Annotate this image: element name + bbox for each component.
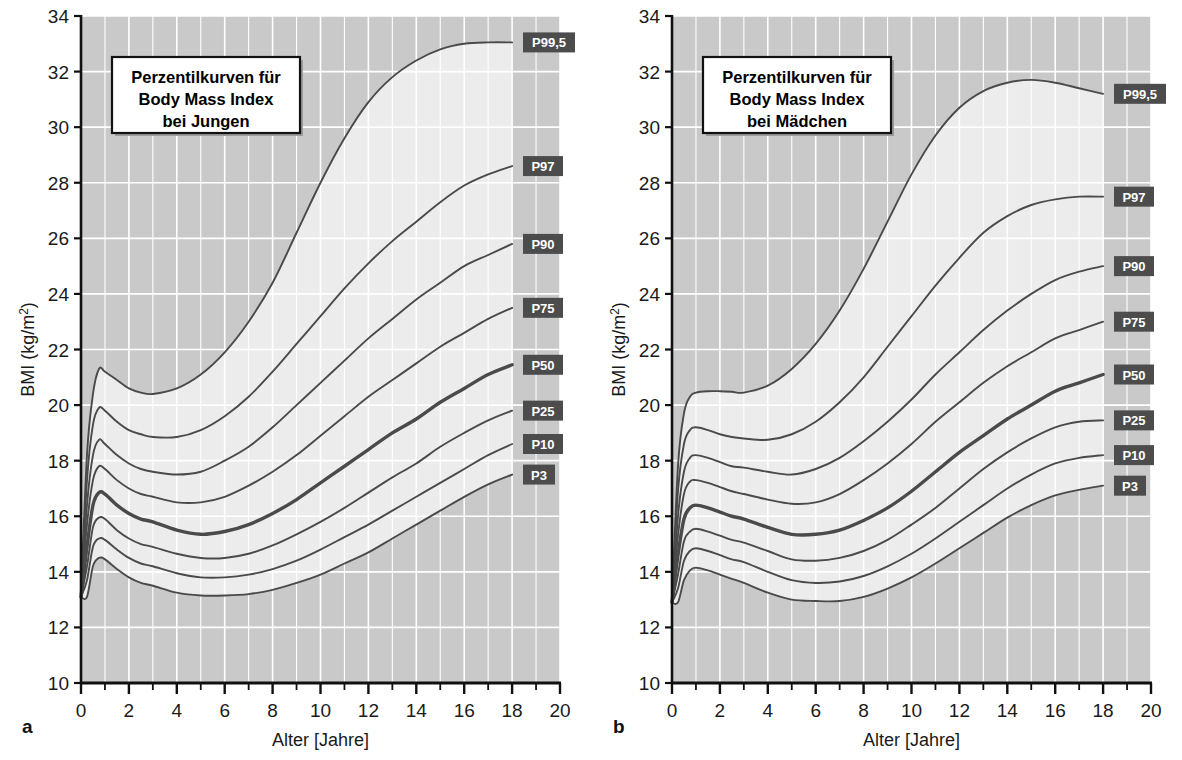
title-line: bei Jungen [162, 112, 249, 130]
y-tick-label: 28 [48, 173, 69, 194]
y-tick-label: 14 [48, 562, 70, 583]
y-axis-ticks: 10121416182022242628303234 [48, 6, 81, 694]
x-tick-label: 20 [549, 700, 570, 721]
y-tick-label: 26 [639, 228, 660, 249]
y-axis-title: BMI (kg/m2) [608, 302, 629, 397]
y-tick-label: 32 [48, 62, 69, 83]
x-tick-label: 14 [406, 700, 428, 721]
percentile-badge-label: P25 [531, 404, 554, 419]
y-tick-label: 18 [48, 451, 69, 472]
title-line: Perzentilkurven für [722, 68, 872, 86]
y-tick-label: 18 [639, 451, 660, 472]
y-tick-label: 22 [48, 340, 69, 361]
x-axis-title: Alter [Jahre] [272, 730, 369, 750]
title-line: bei Mädchen [747, 112, 847, 130]
chart-panel-a: 1012141618202224262830323402468101214161… [0, 0, 591, 760]
x-axis-ticks: 02468101214161820 [667, 683, 1162, 721]
y-tick-label: 20 [48, 395, 69, 416]
x-tick-label: 16 [454, 700, 475, 721]
percentile-badge-label: P3 [1122, 479, 1138, 494]
x-axis-ticks: 02468101214161820 [76, 683, 571, 721]
title-line: Body Mass Index [139, 90, 275, 108]
x-tick-label: 8 [267, 700, 278, 721]
x-tick-label: 18 [1093, 700, 1114, 721]
y-axis-title-text: BMI (kg/m2) [17, 302, 38, 397]
y-tick-label: 34 [639, 6, 661, 27]
x-tick-label: 10 [310, 700, 331, 721]
chart-panel-b: 1012141618202224262830323402468101214161… [591, 0, 1182, 760]
percentile-badge-label: P97 [1122, 190, 1145, 205]
x-tick-label: 2 [124, 700, 135, 721]
x-tick-label: 0 [76, 700, 87, 721]
y-axis-title-text: BMI (kg/m2) [608, 302, 629, 397]
y-tick-label: 12 [48, 617, 69, 638]
panel-letter: b [613, 716, 625, 737]
title-line: Perzentilkurven für [131, 68, 281, 86]
y-tick-label: 10 [48, 673, 69, 694]
percentile-badge-label: P97 [531, 159, 554, 174]
x-axis-title: Alter [Jahre] [863, 730, 960, 750]
y-tick-label: 12 [639, 617, 660, 638]
x-tick-label: 18 [502, 700, 523, 721]
y-tick-label: 26 [48, 228, 69, 249]
x-tick-label: 6 [810, 700, 821, 721]
x-tick-label: 8 [858, 700, 869, 721]
percentile-badge-label: P10 [1122, 448, 1145, 463]
percentile-badge-label: P90 [531, 237, 554, 252]
title-line: Body Mass Index [730, 90, 866, 108]
percentile-badge-label: P3 [531, 468, 547, 483]
x-tick-label: 12 [358, 700, 379, 721]
x-tick-label: 2 [715, 700, 726, 721]
bmi-chart-boys: 1012141618202224262830323402468101214161… [0, 0, 591, 760]
y-tick-label: 16 [48, 506, 69, 527]
y-tick-label: 16 [639, 506, 660, 527]
y-tick-label: 34 [48, 6, 70, 27]
x-tick-label: 6 [219, 700, 230, 721]
y-tick-label: 10 [639, 673, 660, 694]
y-tick-label: 28 [639, 173, 660, 194]
x-tick-label: 4 [763, 700, 774, 721]
percentile-badge-label: P25 [1122, 413, 1145, 428]
percentile-badge-label: P99,5 [1123, 87, 1157, 102]
y-tick-label: 20 [639, 395, 660, 416]
y-tick-label: 22 [639, 340, 660, 361]
x-tick-label: 4 [172, 700, 183, 721]
y-axis-title: BMI (kg/m2) [17, 302, 38, 397]
y-tick-label: 14 [639, 562, 661, 583]
y-tick-label: 24 [639, 284, 661, 305]
x-tick-label: 12 [949, 700, 970, 721]
percentile-badge-label: P50 [1122, 368, 1145, 383]
percentile-badge-label: P75 [531, 301, 554, 316]
x-tick-label: 16 [1045, 700, 1066, 721]
y-axis-ticks: 10121416182022242628303234 [639, 6, 672, 694]
x-tick-label: 20 [1140, 700, 1161, 721]
x-tick-label: 0 [667, 700, 678, 721]
x-tick-label: 10 [901, 700, 922, 721]
y-tick-label: 32 [639, 62, 660, 83]
percentile-badge-label: P75 [1122, 315, 1145, 330]
y-tick-label: 30 [639, 117, 660, 138]
figure-root: 1012141618202224262830323402468101214161… [0, 0, 1182, 760]
x-tick-label: 14 [997, 700, 1019, 721]
percentile-badge-label: P99,5 [532, 35, 566, 50]
panel-letter: a [22, 716, 33, 737]
percentile-badge-label: P10 [531, 437, 554, 452]
percentile-badge-label: P50 [531, 358, 554, 373]
percentile-badge-label: P90 [1122, 259, 1145, 274]
y-tick-label: 30 [48, 117, 69, 138]
y-tick-label: 24 [48, 284, 70, 305]
bmi-chart-girls: 1012141618202224262830323402468101214161… [591, 0, 1182, 760]
